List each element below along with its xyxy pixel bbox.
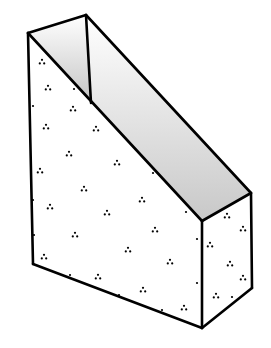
dot: [39, 168, 41, 170]
dot: [231, 296, 233, 298]
dot: [81, 189, 83, 191]
dot: [41, 59, 43, 61]
dot: [49, 88, 51, 90]
dot: [127, 247, 129, 249]
dot: [227, 264, 229, 266]
dot: [228, 216, 230, 218]
dot: [244, 278, 246, 280]
dot: [66, 154, 68, 156]
dot: [240, 278, 242, 280]
dot: [83, 186, 85, 188]
dot: [93, 129, 95, 131]
dot: [41, 171, 43, 173]
dot: [97, 274, 99, 276]
dot: [213, 296, 215, 298]
dot: [181, 308, 183, 310]
dot: [68, 151, 70, 153]
dot: [43, 62, 45, 64]
dot: [142, 287, 144, 289]
dot: [185, 308, 187, 310]
dot: [152, 230, 154, 232]
dot: [95, 126, 97, 128]
dot: [39, 62, 41, 64]
dot: [49, 204, 51, 206]
dot: [196, 238, 198, 240]
dot: [41, 257, 43, 259]
dot: [139, 200, 141, 202]
dot: [45, 257, 47, 259]
right-vertical-edge: [251, 193, 252, 288]
dot: [211, 245, 213, 247]
dot: [106, 210, 108, 212]
dot: [74, 109, 76, 111]
dot: [242, 275, 244, 277]
dot: [45, 88, 47, 90]
dot: [32, 105, 34, 107]
dot: [95, 277, 97, 279]
dot: [161, 309, 163, 311]
dot: [224, 216, 226, 218]
dot: [143, 200, 145, 202]
dot: [229, 261, 231, 263]
dot: [183, 305, 185, 307]
dot: [196, 282, 198, 284]
dot: [85, 189, 87, 191]
dot: [45, 124, 47, 126]
dot: [171, 262, 173, 264]
dot: [156, 230, 158, 232]
dot: [104, 213, 106, 215]
dot: [43, 127, 45, 129]
dot: [226, 213, 228, 215]
faces: [28, 15, 252, 328]
dot: [125, 250, 127, 252]
dot: [152, 172, 154, 174]
dot: [70, 109, 72, 111]
dot: [244, 229, 246, 231]
dot: [154, 227, 156, 229]
dot: [231, 264, 233, 266]
dot: [209, 242, 211, 244]
dot: [72, 106, 74, 108]
dot: [118, 163, 120, 165]
dot: [141, 197, 143, 199]
dot: [73, 88, 75, 90]
dot: [47, 207, 49, 209]
dot: [207, 245, 209, 247]
dot: [217, 296, 219, 298]
dot: [69, 274, 71, 276]
dot: [169, 259, 171, 261]
dot: [43, 254, 45, 256]
dot: [97, 129, 99, 131]
dot: [240, 229, 242, 231]
dot: [185, 211, 187, 213]
dot: [74, 232, 76, 234]
dot: [70, 154, 72, 156]
dot: [116, 160, 118, 162]
magazine-file-holder-drawing: [0, 0, 271, 348]
dot: [51, 207, 53, 209]
dot: [37, 171, 39, 173]
dot: [215, 293, 217, 295]
dot: [72, 235, 74, 237]
figure-canvas: [0, 0, 271, 348]
dot: [242, 226, 244, 228]
dot: [47, 127, 49, 129]
dot: [167, 262, 169, 264]
dot: [99, 277, 101, 279]
dot: [140, 290, 142, 292]
dot: [129, 250, 131, 252]
dot: [114, 163, 116, 165]
dot: [108, 213, 110, 215]
dot: [76, 235, 78, 237]
dot: [144, 290, 146, 292]
dot: [47, 85, 49, 87]
